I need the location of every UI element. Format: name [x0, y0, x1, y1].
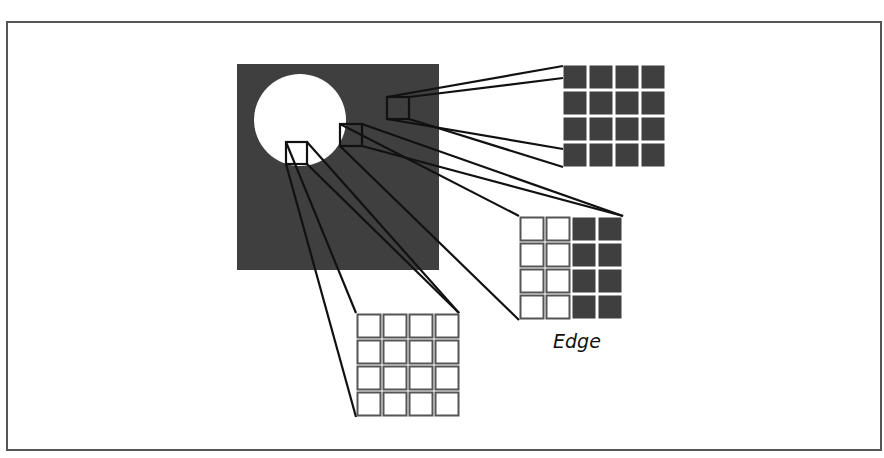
grid-cell: [564, 66, 587, 89]
grid-cell: [358, 341, 381, 364]
grid-cell: [436, 367, 459, 390]
grid-cell: [521, 270, 544, 293]
light-circle: [254, 74, 346, 166]
grid-cell: [564, 118, 587, 141]
grid-cell: [573, 244, 596, 267]
grid-cell: [599, 218, 622, 241]
grid-cell: [521, 244, 544, 267]
grid-cell: [590, 66, 613, 89]
grid-cell: [616, 118, 639, 141]
grid-cell: [642, 144, 665, 167]
grid-cell: [410, 367, 433, 390]
grid-cell: [547, 270, 570, 293]
diagram-canvas: [0, 0, 884, 458]
grid-cell: [384, 341, 407, 364]
light-region-grid: [358, 315, 459, 416]
edge-region-grid: [521, 218, 622, 319]
grid-cell: [599, 270, 622, 293]
grid-cell: [616, 144, 639, 167]
grid-cell: [616, 66, 639, 89]
grid-cell: [410, 393, 433, 416]
grid-cell: [521, 296, 544, 319]
grid-cell: [384, 315, 407, 338]
source-image: [237, 64, 439, 270]
grid-cell: [616, 92, 639, 115]
grid-cell: [573, 218, 596, 241]
grid-cell: [642, 66, 665, 89]
grid-cell: [521, 218, 544, 241]
grid-cell: [590, 118, 613, 141]
grid-cell: [410, 341, 433, 364]
grid-cell: [590, 92, 613, 115]
grid-cell: [573, 270, 596, 293]
grid-cell: [384, 367, 407, 390]
grid-cell: [436, 393, 459, 416]
grid-cell: [547, 244, 570, 267]
grid-cell: [590, 144, 613, 167]
edge-label: Edge: [553, 330, 601, 352]
dark-region-grid: [564, 66, 665, 167]
grid-cell: [358, 393, 381, 416]
grid-cell: [436, 315, 459, 338]
grid-cell: [358, 315, 381, 338]
grid-cell: [547, 218, 570, 241]
grid-cell: [384, 393, 407, 416]
grid-cell: [358, 367, 381, 390]
grid-cell: [547, 296, 570, 319]
grid-cell: [642, 92, 665, 115]
grid-cell: [410, 315, 433, 338]
grid-cell: [599, 296, 622, 319]
grid-cell: [599, 244, 622, 267]
grid-cell: [573, 296, 596, 319]
grid-cell: [642, 118, 665, 141]
grid-cell: [564, 144, 587, 167]
grid-cell: [436, 341, 459, 364]
grid-cell: [564, 92, 587, 115]
